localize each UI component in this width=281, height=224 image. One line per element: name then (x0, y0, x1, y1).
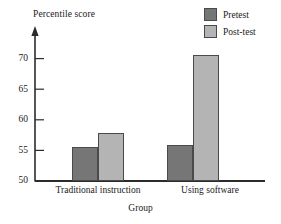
plot-area (35, 33, 265, 181)
y-tick-label-60: 60 (8, 115, 28, 125)
y-tick-label-70: 70 (8, 54, 28, 64)
bar-traditional-posttest (98, 133, 124, 181)
legend-label-pretest: Pretest (223, 10, 249, 20)
bar-software-posttest (193, 55, 219, 181)
legend-item-posttest: Post-test (204, 23, 256, 40)
x-category-label-traditional-instruction: Traditional instruction (28, 185, 168, 195)
legend-swatch-pretest (204, 8, 217, 21)
bar-chart-figure: Percentile score 70 65 60 55 50 Traditio… (0, 0, 281, 224)
y-tick-label-65: 65 (8, 85, 28, 95)
legend-label-posttest: Post-test (223, 27, 256, 37)
bar-software-pretest (167, 145, 193, 181)
y-tick-label-55: 55 (8, 146, 28, 156)
y-tick-label-50: 50 (8, 176, 28, 186)
bar-traditional-pretest (72, 147, 98, 181)
chart-legend: Pretest Post-test (204, 6, 256, 40)
legend-item-pretest: Pretest (204, 6, 256, 23)
legend-swatch-posttest (204, 25, 217, 38)
x-category-label-using-software: Using software (160, 185, 260, 195)
x-axis-title: Group (0, 203, 281, 213)
